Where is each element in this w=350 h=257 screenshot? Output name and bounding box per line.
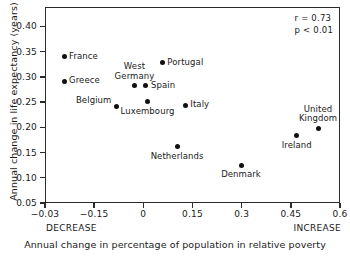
x-tick-mark <box>143 203 144 208</box>
y-tick-label: 0.05 <box>16 198 37 208</box>
data-point-label: Luxembourg <box>121 107 175 116</box>
data-point <box>183 103 188 108</box>
x-tick-label: −0.15 <box>80 209 109 219</box>
data-point <box>316 126 321 131</box>
p-value: p < 0.01 <box>295 24 333 36</box>
x-tick-label: 0.45 <box>280 209 301 219</box>
x-tick-label: 0.6 <box>333 209 348 219</box>
x-tick-mark <box>192 203 193 208</box>
y-tick-label: 0.30 <box>16 72 37 82</box>
data-point <box>145 99 150 104</box>
data-point <box>160 60 165 65</box>
x-axis-increase-label: INCREASE <box>293 223 341 233</box>
data-point-label: UnitedKingdom <box>299 105 337 123</box>
data-point <box>132 83 137 88</box>
x-tick-mark <box>290 203 291 208</box>
plot-area: r = 0.73 p < 0.01 FranceGreeceBelgiumWes… <box>45 7 340 203</box>
data-point-label: Spain <box>151 81 175 90</box>
data-point-label: Greece <box>69 77 100 86</box>
x-tick-label: 0.15 <box>182 209 203 219</box>
y-tick-label: 0.10 <box>16 173 37 183</box>
data-point <box>114 104 119 109</box>
y-tick-label: 0.25 <box>16 97 37 107</box>
y-tick-label: 0.20 <box>16 122 37 132</box>
data-point-label: Ireland <box>282 141 312 150</box>
data-point-label: Denmark <box>221 170 261 179</box>
data-point-label: Netherlands <box>151 152 204 161</box>
x-tick-label: 0.3 <box>234 209 249 219</box>
x-axis-title: Annual change in percentage of populatio… <box>0 239 350 250</box>
data-point-label: Portugal <box>167 58 203 67</box>
x-tick-mark <box>93 203 94 208</box>
data-point <box>294 133 299 138</box>
data-point-label: Italy <box>190 100 209 109</box>
data-point <box>62 79 67 84</box>
data-point <box>239 163 244 168</box>
x-tick-mark <box>241 203 242 208</box>
x-tick-mark <box>339 203 340 208</box>
data-point-label: France <box>69 52 98 61</box>
x-axis-decrease-label: DECREASE <box>46 223 97 233</box>
data-point <box>143 83 148 88</box>
x-tick-mark <box>44 203 45 208</box>
data-point <box>62 54 67 59</box>
data-point <box>175 144 180 149</box>
x-tick-label: 0 <box>140 209 146 219</box>
x-tick-label: −0.03 <box>31 209 60 219</box>
y-tick-label: 0.40 <box>16 21 37 31</box>
data-point-label: Belgium <box>76 96 112 105</box>
y-tick-label: 0.15 <box>16 148 37 158</box>
scatter-plot-figure: Annual change in life expectancy (years)… <box>0 0 350 257</box>
correlation-value: r = 0.73 <box>295 12 333 24</box>
statistics-annotation: r = 0.73 p < 0.01 <box>295 12 333 37</box>
data-point-label: WestGermany <box>115 62 155 80</box>
y-tick-label: 0.35 <box>16 47 37 57</box>
